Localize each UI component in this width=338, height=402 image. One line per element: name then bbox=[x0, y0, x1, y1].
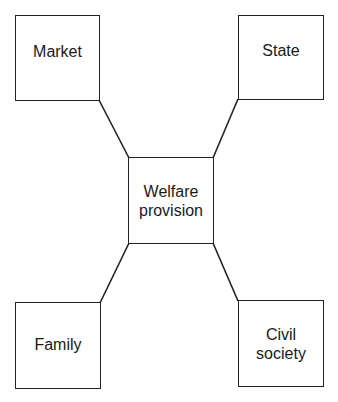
node-state-label: State bbox=[262, 41, 299, 60]
node-family-label: Family bbox=[34, 335, 81, 354]
node-market: Market bbox=[15, 15, 100, 101]
node-market-label: Market bbox=[33, 42, 82, 61]
edge-civil-society-welfare bbox=[213, 243, 238, 301]
node-civil-society-label-line2: society bbox=[256, 344, 306, 363]
node-welfare-label-line1: Welfare bbox=[139, 182, 203, 201]
node-state: State bbox=[238, 15, 324, 100]
node-welfare-provision: Welfare provision bbox=[128, 157, 214, 244]
node-civil-society: Civil society bbox=[238, 300, 324, 387]
edge-market-welfare bbox=[99, 100, 129, 158]
edge-state-welfare bbox=[213, 99, 238, 158]
node-welfare-label-line2: provision bbox=[139, 201, 203, 220]
edge-family-welfare bbox=[100, 243, 129, 303]
node-family: Family bbox=[15, 302, 101, 389]
node-civil-society-label-line1: Civil bbox=[256, 325, 306, 344]
